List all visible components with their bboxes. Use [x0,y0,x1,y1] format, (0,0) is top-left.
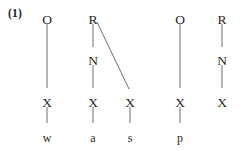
tree-node-skeleton-x5: X [209,96,235,110]
example-number-label: (1) [8,6,22,20]
tree-node-segment-s4: p [167,131,193,145]
tree-node-nucleus-n2: N [209,54,235,68]
tree-node-skeleton-x1: X [34,96,60,110]
tree-node-rhyme-r2: R [209,13,235,27]
tree-node-nucleus-n1: N [80,54,106,68]
tree-node-onset-o2: O [167,13,193,27]
tree-node-segment-s2: a [80,131,106,145]
tree-node-onset-o1: O [34,13,60,27]
tree-node-segment-s1: w [34,131,60,145]
tree-node-rhyme-r1: R [80,13,106,27]
tree-node-segment-s3: s [117,131,143,145]
tree-node-skeleton-x2: X [80,96,106,110]
tree-node-skeleton-x4: X [167,96,193,110]
tree-node-skeleton-x3: X [117,96,143,110]
syllable-structure-diagram: (1) ORORNNXXXXXwasp [0,0,244,151]
